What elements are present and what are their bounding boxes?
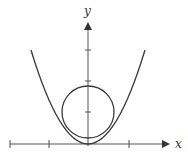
y-axis: y — [83, 4, 91, 146]
x-axis: x — [10, 137, 182, 151]
y-axis-label: y — [83, 4, 91, 18]
diagram-canvas: x y — [0, 0, 188, 153]
x-axis-label: x — [175, 137, 182, 151]
